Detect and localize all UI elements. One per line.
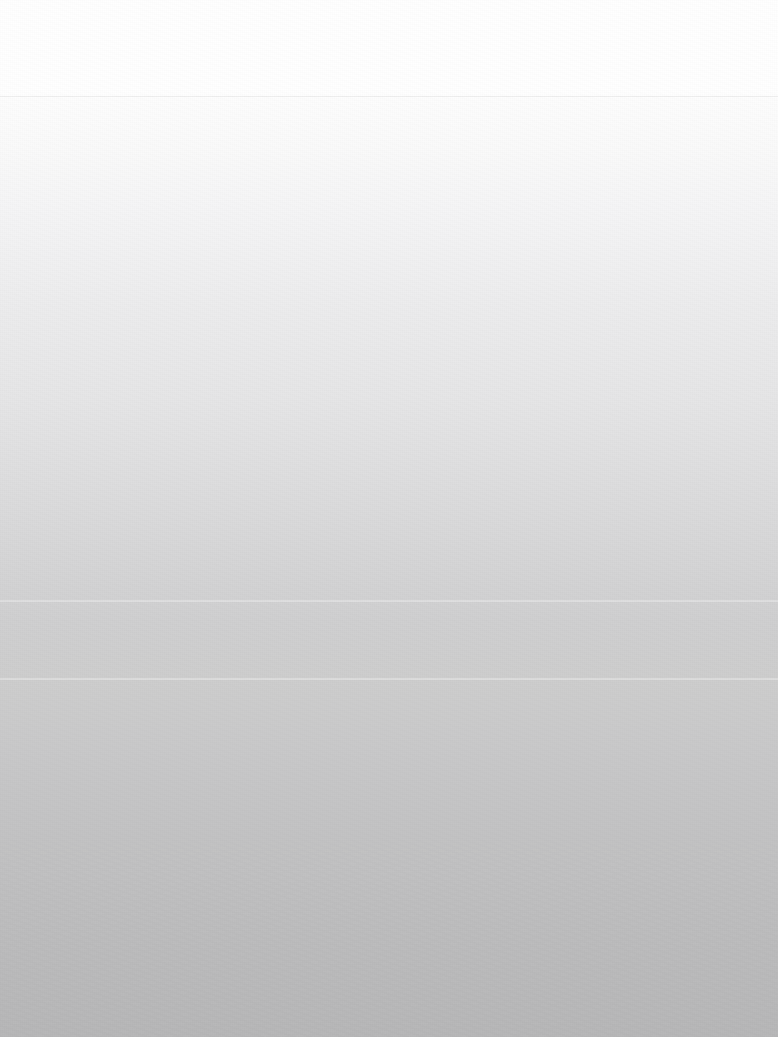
header-area xyxy=(0,0,778,96)
content-area xyxy=(0,97,778,1037)
screen-root xyxy=(0,0,778,1037)
